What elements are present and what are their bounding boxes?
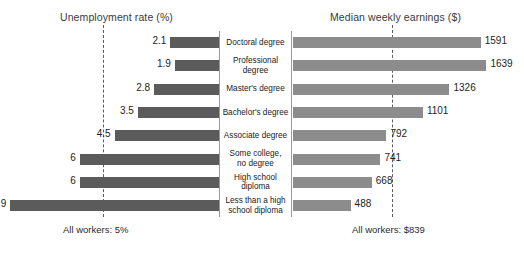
- earnings-bar: [293, 130, 386, 141]
- earnings-bar: [293, 200, 351, 211]
- earnings-bar: [293, 154, 380, 165]
- earnings-value-label: 1591: [485, 35, 507, 46]
- earnings-value-label: 1639: [490, 58, 512, 69]
- earnings-cell: 1591: [293, 31, 524, 54]
- earnings-axis-title: Median weekly earnings ($): [330, 11, 461, 23]
- all-workers-unemployment-note: All workers: 5%: [63, 224, 128, 235]
- category-label: Some college,no degree: [219, 148, 292, 171]
- unemployment-value-label: 4.5: [97, 128, 111, 139]
- all-workers-earnings-note: All workers: $839: [352, 224, 425, 235]
- earnings-value-label: 1101: [427, 105, 449, 116]
- earnings-value-label: 668: [376, 175, 393, 186]
- unemployment-cell: 2.1: [0, 31, 219, 54]
- chart-row: 3.5Bachelor's degree1101: [0, 101, 524, 124]
- unemployment-cell: 6: [0, 171, 219, 194]
- earnings-cell: 1101: [293, 101, 524, 124]
- category-label: Master's degree: [219, 78, 292, 101]
- unemployment-bar: [80, 154, 219, 165]
- category-label: Professionaldegree: [219, 54, 292, 77]
- earnings-bar: [293, 84, 449, 95]
- unemployment-value-label: 9: [1, 198, 7, 209]
- earnings-value-label: 1326: [453, 82, 475, 93]
- category-label: Less than a highschool diploma: [219, 194, 292, 217]
- chart-row: 4.5Associate degree792: [0, 124, 524, 147]
- category-label-text: Master's degree: [226, 84, 284, 94]
- unemployment-value-label: 6: [70, 152, 76, 163]
- category-label-text: Bachelor's degree: [223, 108, 289, 118]
- unemployment-bar: [138, 107, 219, 118]
- earnings-cell: 792: [293, 124, 524, 147]
- unemployment-cell: 4.5: [0, 124, 219, 147]
- unemployment-cell: 6: [0, 148, 219, 171]
- unemployment-bar: [115, 130, 219, 141]
- earnings-cell: 668: [293, 171, 524, 194]
- unemployment-cell: 1.9: [0, 54, 219, 77]
- unemployment-value-label: 2.1: [152, 35, 166, 46]
- chart-row: 9Less than a highschool diploma488: [0, 194, 524, 217]
- earnings-cell: 488: [293, 194, 524, 217]
- earnings-bar: [293, 37, 481, 48]
- chart-row: 2.1Doctoral degree1591: [0, 31, 524, 54]
- unemployment-cell: 9: [0, 194, 219, 217]
- unemployment-value-label: 2.8: [136, 82, 150, 93]
- category-label-text: Professionaldegree: [233, 56, 278, 75]
- earnings-value-label: 741: [384, 152, 401, 163]
- chart-row: 1.9Professionaldegree1639: [0, 54, 524, 77]
- category-label-text: High schooldiploma: [234, 173, 277, 192]
- category-label: Associate degree: [219, 124, 292, 147]
- earnings-bar: [293, 60, 486, 71]
- unemployment-value-label: 1.9: [157, 58, 171, 69]
- category-label-text: Some college,no degree: [230, 149, 282, 168]
- unemployment-value-label: 3.5: [120, 105, 134, 116]
- unemployment-bar: [170, 37, 219, 48]
- category-label-text: Less than a highschool diploma: [225, 196, 285, 215]
- unemployment-cell: 3.5: [0, 101, 219, 124]
- earnings-cell: 1326: [293, 78, 524, 101]
- chart-row: 6High schooldiploma668: [0, 171, 524, 194]
- chart-row: 2.8Master's degree1326: [0, 78, 524, 101]
- earnings-bar: [293, 107, 423, 118]
- category-label: Doctoral degree: [219, 31, 292, 54]
- earnings-cell: 741: [293, 148, 524, 171]
- unemployment-bar: [80, 177, 219, 188]
- earnings-cell: 1639: [293, 54, 524, 77]
- unemployment-value-label: 6: [70, 175, 76, 186]
- unemployment-cell: 2.8: [0, 78, 219, 101]
- unemployment-bar: [10, 200, 219, 211]
- earnings-value-label: 488: [355, 198, 372, 209]
- chart-row: 6Some college,no degree741: [0, 148, 524, 171]
- earnings-value-label: 792: [390, 128, 407, 139]
- category-label-text: Associate degree: [224, 131, 287, 141]
- earnings-bar: [293, 177, 372, 188]
- education-earnings-tornado-chart: Unemployment rate (%) Median weekly earn…: [0, 0, 524, 254]
- category-label-text: Doctoral degree: [226, 38, 284, 48]
- unemployment-bar: [175, 60, 219, 71]
- unemployment-axis-title: Unemployment rate (%): [60, 11, 173, 23]
- unemployment-bar: [154, 84, 219, 95]
- category-label: High schooldiploma: [219, 171, 292, 194]
- category-label: Bachelor's degree: [219, 101, 292, 124]
